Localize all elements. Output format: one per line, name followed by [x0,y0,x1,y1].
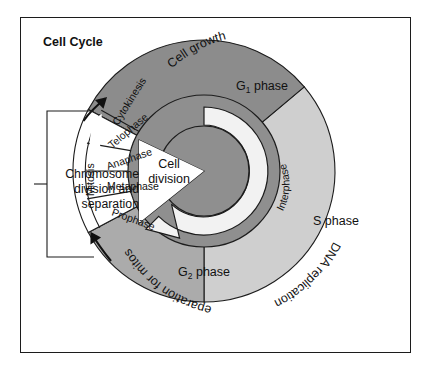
label-cell-division-line1: Cell [158,157,180,171]
label-chromosome-line2: division and [74,182,139,196]
cell-cycle-diagram: G1 phase S phase G2 phase Cell growth DN… [21,18,409,351]
label-chromosome-line3: separation [82,197,140,211]
label-s-phase: S phase [313,214,359,228]
label-g1-phase: G1 phase [236,79,288,95]
page-title: Cell Cycle [43,35,103,49]
figure-frame: G1 phase S phase G2 phase Cell growth DN… [20,17,411,353]
label-g2-phase: G2 phase [178,265,230,281]
label-chromosome-line1: Chromosome [65,167,139,181]
